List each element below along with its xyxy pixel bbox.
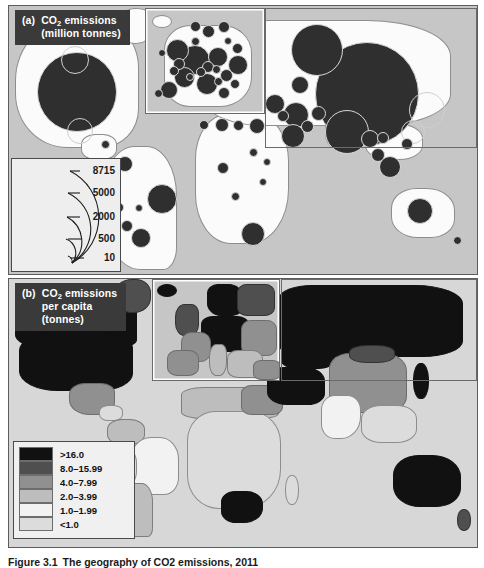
- inset-country-italy: [209, 344, 227, 376]
- legend-label-1: 8.0–15.99: [60, 463, 102, 474]
- country-kazakhstan: [281, 341, 335, 369]
- legend-row: 1.0–1.99: [19, 503, 129, 517]
- bubble-ireland: [158, 49, 166, 57]
- bubble-hungary: [212, 65, 221, 74]
- bubble-vietnam: [377, 132, 389, 144]
- bubble-kazakhstan: [291, 76, 309, 94]
- bubble-indonesia: [379, 156, 401, 178]
- bubble-ethiopia: [263, 158, 271, 166]
- bubble-serbia: [214, 77, 223, 86]
- bubble-norway: [190, 21, 201, 32]
- europe-inset-panel-a: [145, 8, 265, 114]
- inset-country-iceland: [157, 284, 177, 297]
- bubble-iraq: [277, 110, 289, 122]
- legend-row: >16.0: [19, 447, 129, 461]
- bubble-belgium: [169, 66, 179, 76]
- bubble-greece: [218, 87, 230, 99]
- bubble-denmark: [191, 37, 200, 46]
- country-south-africa: [221, 491, 263, 523]
- bubble-spain: [160, 81, 178, 99]
- panel-a-title-subscript: 2: [57, 19, 61, 28]
- legend-value-3: 500: [98, 233, 115, 244]
- bubble-bulgaria: [230, 79, 240, 89]
- europe-inset-panel-b: [152, 279, 280, 381]
- panel-a-label: (a): [22, 14, 35, 40]
- country-australia: [393, 455, 461, 507]
- bubble-russia: [291, 24, 343, 76]
- caption-text: The geography of CO2 emissions, 2011: [63, 556, 258, 568]
- legend-label-4: 1.0–1.99: [60, 505, 97, 516]
- panel-a-title-line2: (million tonnes): [41, 27, 121, 39]
- legend-label-3: 2.0–3.99: [60, 491, 97, 502]
- bubble-australia: [407, 198, 433, 224]
- legend-label-2: 4.0–7.99: [60, 477, 97, 488]
- bubble-egypt: [249, 118, 265, 134]
- panel-b-title-line2: per capita: [42, 300, 93, 312]
- proportional-circle-legend: 8715 5000 2000 500 10: [11, 158, 121, 272]
- bubble-pakistan: [311, 106, 326, 121]
- bubble-bolivia: [135, 204, 143, 212]
- bubble-new-zealand: [453, 236, 462, 245]
- bubble-argentina: [131, 228, 151, 248]
- country-new-zealand: [457, 509, 471, 531]
- country-japan: [413, 363, 429, 399]
- legend-row: <1.0: [19, 517, 129, 531]
- figure-caption: Figure 3.1The geography of CO2 emissions…: [8, 556, 478, 568]
- legend-row: 4.0–7.99: [19, 475, 129, 489]
- legend-label-0: >16.0: [60, 449, 84, 460]
- legend-swatch-1: [19, 461, 53, 475]
- panel-b-title-subscript: 2: [58, 292, 62, 301]
- panel-a-title-post: emissions: [61, 14, 116, 26]
- legend-swatch-2: [19, 475, 53, 489]
- choropleth-legend: >16.0 8.0–15.99 4.0–7.99 2.0–3.99 1.0–1.…: [13, 441, 135, 539]
- bubble-brazil: [147, 184, 177, 214]
- inset-country-turkey: [253, 360, 280, 380]
- legend-value-0: 8715: [93, 165, 115, 176]
- bubble-chile: [121, 220, 133, 232]
- bubble-morocco: [199, 120, 209, 130]
- panel-b-title-pre: CO: [42, 287, 58, 299]
- bubble-sweden: [202, 25, 215, 38]
- inset-country-finland-russia: [237, 284, 275, 316]
- bubble-nigeria: [217, 162, 229, 174]
- bubble-mexico: [67, 118, 93, 144]
- panel-b-title-line3: (tonnes): [42, 313, 84, 325]
- panel-b-label: (b): [22, 287, 36, 326]
- inset-landmass-iceland: [152, 15, 172, 28]
- legend-value-1: 5000: [93, 187, 115, 198]
- panel-b-title: (b) CO2 emissions per capita (tonnes): [15, 283, 126, 331]
- legend-swatch-3: [19, 489, 53, 503]
- caption-number: Figure 3.1: [8, 556, 58, 568]
- inset-country-iberia: [167, 350, 199, 376]
- legend-label-5: <1.0: [60, 519, 79, 530]
- bubble-portugal: [154, 89, 163, 98]
- bubble-switzerland: [186, 73, 194, 81]
- bubble-sudan: [249, 148, 258, 157]
- country-india: [321, 395, 361, 439]
- bubble-kenya: [259, 178, 267, 186]
- bubble-angola: [231, 192, 240, 201]
- country-madagascar: [285, 475, 299, 505]
- legend-value-2: 2000: [93, 211, 115, 222]
- legend-row: 8.0–15.99: [19, 461, 129, 475]
- bubble-algeria: [215, 118, 229, 132]
- bubble-south-africa: [241, 222, 265, 246]
- legend-row: 2.0–3.99: [19, 489, 129, 503]
- country-southeast-asia: [361, 405, 417, 443]
- legend-swatch-0: [19, 447, 53, 461]
- country-mongolia: [349, 345, 395, 363]
- legend-swatch-4: [19, 503, 53, 517]
- bubble-baltic: [224, 37, 232, 45]
- bubble-philippines: [401, 138, 413, 150]
- panel-a-proportional-circles: (a) CO2 emissions (million tonnes): [8, 5, 478, 275]
- panel-b-title-post: emissions: [62, 287, 117, 299]
- bubble-uae: [301, 120, 314, 133]
- panel-b-choropleth: (b) CO2 emissions per capita (tonnes) >1…: [8, 278, 478, 548]
- panel-a-title-pre: CO: [41, 14, 57, 26]
- bubble-austria: [196, 67, 206, 77]
- bubble-belarus: [232, 43, 243, 54]
- bubble-caribbean: [101, 140, 110, 149]
- landmass-africa: [195, 114, 289, 244]
- bubble-libya: [233, 120, 244, 131]
